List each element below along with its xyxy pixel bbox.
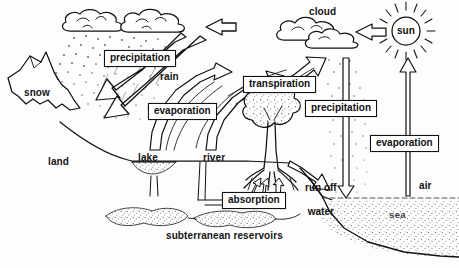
tree <box>243 84 300 190</box>
water-cycle-diagram: precipitation evaporation transpiration … <box>0 0 459 268</box>
label-precipitation-left: precipitation <box>104 50 176 67</box>
label-rain: rain <box>160 72 179 83</box>
label-sun: sun <box>397 25 415 36</box>
label-subterranean-reservoirs: subterranean reservoirs <box>166 231 283 242</box>
label-snow: snow <box>24 88 50 99</box>
cloud-upper-mid <box>121 9 185 32</box>
label-land: land <box>48 157 69 168</box>
label-precipitation-right: precipitation <box>305 100 377 117</box>
river-channel <box>198 162 222 205</box>
label-sea: sea <box>389 209 406 220</box>
arrow-cloud-drift-left <box>206 19 236 35</box>
arrow-sun-to-cloud <box>356 24 386 40</box>
land-surface <box>60 122 332 200</box>
arrow-precipitation-sea <box>338 58 354 198</box>
label-air: air <box>419 181 432 192</box>
diagram-artwork <box>0 0 459 268</box>
label-transpiration: transpiration <box>243 76 316 93</box>
mountain-snow <box>8 52 80 110</box>
cloud-right <box>277 17 358 48</box>
cloud-upper-left <box>63 10 122 32</box>
arrow-evaporation-sea <box>400 58 416 196</box>
run-off-line2: water <box>308 206 334 217</box>
run-off-line1: run off <box>305 182 337 193</box>
reservoir-left <box>106 208 188 226</box>
label-absorption: absorption <box>222 192 286 209</box>
label-evaporation-left: evaporation <box>148 103 217 120</box>
label-cloud: cloud <box>309 7 336 18</box>
label-evaporation-right: evaporation <box>370 135 439 152</box>
label-lake: lake <box>138 153 158 164</box>
lake-basin <box>132 162 176 174</box>
label-river: river <box>203 153 225 164</box>
label-run-off-water: run off water <box>305 170 337 218</box>
reservoir-right <box>194 211 276 228</box>
lake-channel <box>150 176 158 196</box>
